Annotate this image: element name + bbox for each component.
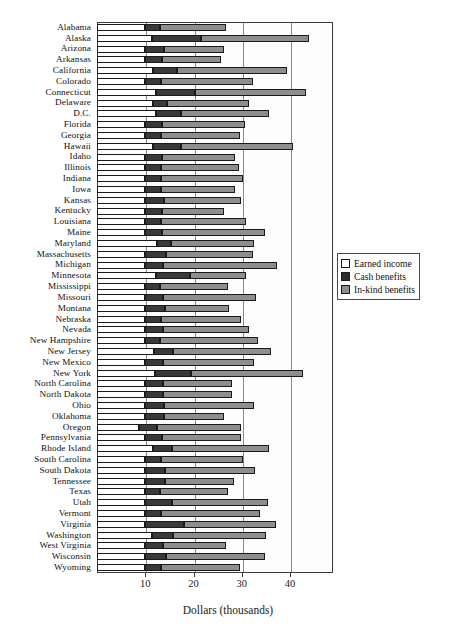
bar-segment-in-kind-benefits: [163, 542, 226, 549]
bar-segment-cash-benefits: [145, 262, 162, 269]
bar-segment-earned-income: [97, 316, 145, 323]
bar-segment-cash-benefits: [156, 110, 181, 117]
bar-row: [97, 132, 333, 139]
bar-segment-earned-income: [97, 218, 145, 225]
bar-segment-earned-income: [97, 272, 156, 279]
category-label-rhode-island: Rhode Island: [41, 443, 91, 453]
bar-segment-cash-benefits: [145, 402, 164, 409]
category-label-kentucky: Kentucky: [54, 205, 91, 215]
bar-segment-cash-benefits: [145, 24, 160, 31]
bar-segment-earned-income: [97, 132, 145, 139]
category-label-south-dakota: South Dakota: [40, 465, 91, 475]
white-square-icon: [341, 259, 350, 268]
category-label-idaho: Idaho: [70, 151, 91, 161]
bar-segment-earned-income: [97, 143, 153, 150]
bar-row: [97, 467, 333, 474]
bar-segment-earned-income: [97, 35, 152, 42]
bar-row: [97, 186, 333, 193]
category-label-alabama: Alabama: [57, 22, 91, 32]
category-label-wisconsin: Wisconsin: [52, 551, 91, 561]
bar-segment-in-kind-benefits: [191, 370, 303, 377]
category-label-kansas: Kansas: [64, 195, 91, 205]
bar-segment-cash-benefits: [145, 478, 164, 485]
bar-segment-cash-benefits: [145, 564, 161, 571]
bar-row: [97, 229, 333, 236]
bar-segment-cash-benefits: [153, 143, 181, 150]
bar-segment-earned-income: [97, 262, 145, 269]
bar-segment-in-kind-benefits: [166, 251, 253, 258]
bar-segment-earned-income: [97, 251, 145, 258]
bar-segment-cash-benefits: [145, 78, 161, 85]
x-tick-30: [242, 573, 243, 577]
bar-segment-earned-income: [97, 380, 145, 387]
x-tick-label-40: 40: [285, 578, 296, 589]
bar-segment-in-kind-benefits: [181, 110, 269, 117]
bar-row: [97, 240, 333, 247]
bar-segment-in-kind-benefits: [162, 229, 266, 236]
bar-segment-earned-income: [97, 164, 145, 171]
category-label-pennsylvania: Pennsylvania: [41, 432, 91, 442]
category-label-texas: Texas: [69, 486, 91, 496]
bar-segment-in-kind-benefits: [163, 391, 232, 398]
bar-row: [97, 110, 333, 117]
legend-item-cash-benefits: Cash benefits: [341, 270, 415, 283]
bar-segment-in-kind-benefits: [160, 283, 228, 290]
bar-segment-earned-income: [97, 89, 156, 96]
bar-segment-earned-income: [97, 424, 139, 431]
bar-row: [97, 445, 333, 452]
bar-row: [97, 499, 333, 506]
bar-segment-in-kind-benefits: [160, 337, 257, 344]
bar-segment-in-kind-benefits: [162, 56, 220, 63]
category-label-utah: Utah: [73, 497, 91, 507]
bar-segment-earned-income: [97, 467, 145, 474]
bar-segment-in-kind-benefits: [161, 186, 234, 193]
bar-segment-earned-income: [97, 100, 153, 107]
bar-segment-cash-benefits: [153, 67, 177, 74]
bar-segment-in-kind-benefits: [181, 143, 292, 150]
bar-segment-earned-income: [97, 294, 145, 301]
bar-row: [97, 143, 333, 150]
category-label-indiana: Indiana: [63, 173, 91, 183]
bar-segment-in-kind-benefits: [163, 359, 254, 366]
bar-segment-earned-income: [97, 67, 153, 74]
bar-row: [97, 89, 333, 96]
bar-segment-cash-benefits: [145, 413, 164, 420]
bar-segment-cash-benefits: [155, 370, 191, 377]
category-label-d-c-: D.C.: [73, 108, 91, 118]
category-label-minnesota: Minnesota: [51, 270, 91, 280]
bar-segment-earned-income: [97, 521, 145, 528]
category-label-arizona: Arizona: [61, 43, 91, 53]
bar-segment-in-kind-benefits: [161, 218, 245, 225]
bar-segment-in-kind-benefits: [164, 413, 224, 420]
bar-row: [97, 121, 333, 128]
bar-segment-earned-income: [97, 154, 145, 161]
x-tick-10: [145, 573, 146, 577]
legend-label-earned-income: Earned income: [354, 258, 412, 269]
bar-row: [97, 35, 333, 42]
category-label-maryland: Maryland: [54, 238, 91, 248]
bar-segment-earned-income: [97, 445, 153, 452]
category-label-tennessee: Tennessee: [52, 476, 91, 486]
bar-segment-cash-benefits: [145, 218, 161, 225]
bar-segment-earned-income: [97, 283, 145, 290]
bar-segment-earned-income: [97, 553, 145, 560]
bar-segment-in-kind-benefits: [162, 208, 224, 215]
bar-row: [97, 24, 333, 31]
bar-segment-cash-benefits: [145, 488, 160, 495]
legend-label-cash-benefits: Cash benefits: [354, 271, 406, 282]
bar-segment-in-kind-benefits: [184, 521, 275, 528]
bar-row: [97, 521, 333, 528]
category-label-illinois: Illinois: [64, 162, 91, 172]
bar-segment-in-kind-benefits: [161, 564, 240, 571]
category-label-vermont: Vermont: [59, 508, 91, 518]
category-label-florida: Florida: [64, 119, 91, 129]
bar-segment-cash-benefits: [152, 532, 173, 539]
bar-segment-cash-benefits: [145, 326, 163, 333]
bar-segment-in-kind-benefits: [161, 164, 239, 171]
bar-segment-cash-benefits: [145, 359, 163, 366]
bar-segment-in-kind-benefits: [160, 488, 228, 495]
bar-row: [97, 326, 333, 333]
bar-segment-in-kind-benefits: [161, 316, 241, 323]
bar-segment-in-kind-benefits: [164, 402, 254, 409]
category-label-oregon: Oregon: [63, 422, 91, 432]
